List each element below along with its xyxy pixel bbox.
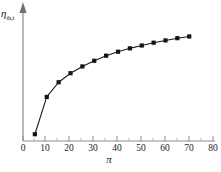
data-point: [163, 38, 167, 42]
data-point: [140, 43, 144, 47]
x-axis-label: π: [96, 153, 122, 165]
data-point: [57, 80, 61, 84]
xtick-label-0: 0: [12, 143, 34, 153]
data-point: [80, 64, 84, 68]
chart-figure: 0 10 20 30 40 50 60 70 80 π ηth,i: [0, 0, 221, 172]
xtick-label-50: 50: [130, 143, 152, 153]
y-axis-label: ηth,i: [1, 7, 14, 21]
xtick-label-70: 70: [178, 143, 200, 153]
data-point: [33, 132, 37, 136]
xtick-label-60: 60: [154, 143, 176, 153]
xtick-label-80: 80: [202, 143, 221, 153]
series-line-eta: [35, 36, 189, 134]
xtick-label-20: 20: [58, 143, 80, 153]
xtick-label-30: 30: [82, 143, 104, 153]
data-point: [187, 34, 191, 38]
xtick-label-10: 10: [34, 143, 56, 153]
data-point: [68, 71, 72, 75]
data-point: [116, 50, 120, 54]
data-point: [175, 36, 179, 40]
data-point: [104, 54, 108, 58]
xtick-label-40: 40: [106, 143, 128, 153]
x-axis: [23, 136, 215, 141]
y-axis-arrowhead: [20, 2, 27, 13]
data-point: [152, 41, 156, 45]
data-point: [92, 59, 96, 63]
data-point: [45, 95, 49, 99]
y-axis-label-subscript: th,i: [6, 14, 14, 21]
data-point: [128, 46, 132, 50]
y-axis: [20, 2, 27, 141]
